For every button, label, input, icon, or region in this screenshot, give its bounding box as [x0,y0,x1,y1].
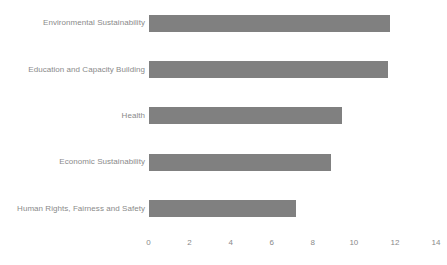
bar-track [149,154,332,171]
x-tick-label: 6 [257,238,287,248]
plot-area: Environmental Sustainability Education a… [0,0,447,232]
chart-row: Education and Capacity Building [0,46,447,92]
bar-track [149,61,388,78]
chart-row: Economic Sustainability [0,139,447,185]
x-tick-label: 14 [421,238,447,248]
x-tick-label: 10 [339,238,369,248]
bar[interactable] [149,154,332,171]
category-label: Human Rights, Fairness and Safety [0,204,145,214]
bar-chart: Environmental Sustainability Education a… [0,0,447,265]
x-tick-label: 2 [175,238,205,248]
bar[interactable] [149,15,390,32]
chart-row: Environmental Sustainability [0,0,447,46]
chart-row: Health [0,93,447,139]
x-tick-label: 0 [134,238,164,248]
category-label: Health [0,111,145,121]
category-label: Environmental Sustainability [0,18,145,28]
bar-track [149,200,297,217]
bar[interactable] [149,107,342,124]
x-tick-label: 4 [216,238,246,248]
bar-track [149,107,342,124]
chart-row: Human Rights, Fairness and Safety [0,186,447,232]
bar-track [149,15,390,32]
x-tick-label: 8 [298,238,328,248]
bar[interactable] [149,61,388,78]
category-label: Economic Sustainability [0,157,145,167]
category-label: Education and Capacity Building [0,65,145,75]
x-axis: 0 2 4 6 8 10 12 14 [0,232,447,265]
x-tick-label: 12 [380,238,410,248]
bar[interactable] [149,200,297,217]
